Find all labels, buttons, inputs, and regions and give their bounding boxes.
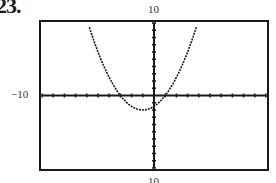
parabola-curve	[89, 27, 196, 110]
axes	[42, 23, 266, 168]
graph-plot	[0, 0, 276, 183]
